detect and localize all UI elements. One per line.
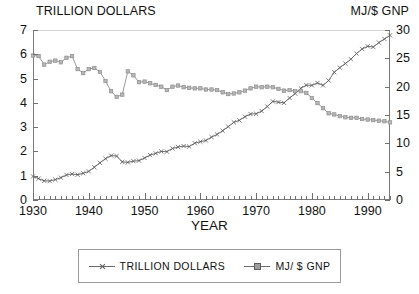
x-minor-tick <box>39 196 40 200</box>
data-point-marker <box>310 96 313 99</box>
right-axis-title: MJ/$ GNP <box>351 4 409 18</box>
left-axis-title: TRILLION DOLLARS <box>36 4 156 18</box>
x-minor-tick <box>317 196 318 200</box>
data-point-marker <box>36 177 40 181</box>
series-lines <box>33 30 390 200</box>
data-point-marker <box>104 79 107 82</box>
data-point-marker <box>98 70 101 73</box>
data-point-marker <box>87 169 91 173</box>
legend-marker-square-icon <box>244 262 270 271</box>
data-point-marker <box>87 67 90 70</box>
data-point-marker <box>121 93 124 96</box>
x-minor-tick <box>150 196 151 200</box>
x-minor-tick <box>345 196 346 200</box>
data-point-marker <box>199 87 202 90</box>
data-point-marker <box>176 84 179 87</box>
data-point-marker <box>93 66 96 69</box>
data-point-marker <box>165 88 168 91</box>
data-point-marker <box>132 74 135 77</box>
x-minor-tick <box>295 196 296 200</box>
x-minor-tick <box>223 196 224 200</box>
right-tick <box>385 200 390 201</box>
x-minor-tick <box>234 196 235 200</box>
data-point-marker <box>82 71 85 74</box>
data-point-marker <box>377 119 380 122</box>
x-major-tick <box>33 193 34 200</box>
data-point-marker <box>383 120 386 123</box>
data-point-marker <box>249 87 252 90</box>
x-major-tick <box>145 193 146 200</box>
data-point-marker <box>327 78 331 82</box>
data-point-marker <box>321 83 325 87</box>
x-minor-tick <box>161 196 162 200</box>
x-minor-tick <box>379 196 380 200</box>
x-minor-tick <box>94 196 95 200</box>
data-point-marker <box>215 88 218 91</box>
x-minor-tick <box>172 196 173 200</box>
x-minor-tick <box>357 196 358 200</box>
data-point-marker <box>338 66 342 70</box>
left-tick <box>33 79 38 80</box>
x-tick-label: 1990 <box>343 205 393 218</box>
x-minor-tick <box>329 196 330 200</box>
x-minor-tick <box>167 196 168 200</box>
left-tick-label: 7 <box>5 24 27 37</box>
left-tick <box>33 103 38 104</box>
data-point-marker <box>103 157 107 161</box>
data-point-marker <box>209 135 213 139</box>
x-tick-label: 1970 <box>231 205 281 218</box>
data-point-marker <box>160 85 163 88</box>
left-tick <box>33 200 38 201</box>
data-point-marker <box>243 89 246 92</box>
data-point-marker <box>210 88 213 91</box>
data-point-marker <box>42 63 45 66</box>
data-point-marker <box>243 115 247 119</box>
x-minor-tick <box>373 196 374 200</box>
left-tick-label: 5 <box>5 73 27 86</box>
legend-marker-x-icon <box>89 262 115 271</box>
x-minor-tick <box>384 196 385 200</box>
right-tick-label: 5 <box>396 166 419 179</box>
x-minor-tick <box>178 196 179 200</box>
data-point-marker <box>355 116 358 119</box>
data-point-marker <box>204 88 207 91</box>
legend-item-mj-gnp: MJ/ $ GNP <box>244 260 330 272</box>
right-tick-label: 20 <box>396 81 419 94</box>
data-point-marker <box>327 112 330 115</box>
data-point-marker <box>182 86 185 89</box>
data-point-marker <box>277 87 280 90</box>
data-point-marker <box>316 101 319 104</box>
data-point-marker <box>59 61 62 64</box>
x-minor-tick <box>262 196 263 200</box>
x-minor-tick <box>72 196 73 200</box>
chart-legend: TRILLION DOLLARS MJ/ $ GNP <box>78 249 341 283</box>
data-point-marker <box>293 90 296 93</box>
data-point-marker <box>148 82 151 85</box>
right-tick <box>385 115 390 116</box>
data-point-marker <box>54 59 57 62</box>
x-minor-tick <box>239 196 240 200</box>
x-major-tick <box>368 193 369 200</box>
x-minor-tick <box>83 196 84 200</box>
x-minor-tick <box>284 196 285 200</box>
x-minor-tick <box>390 196 391 200</box>
x-minor-tick <box>212 196 213 200</box>
left-tick <box>33 127 38 128</box>
x-minor-tick <box>50 196 51 200</box>
data-point-marker <box>265 104 269 108</box>
series-1 <box>31 33 392 183</box>
x-tick-label: 1940 <box>64 205 114 218</box>
x-minor-tick <box>111 196 112 200</box>
data-point-marker <box>48 60 51 63</box>
chart-figure: TRILLION DOLLARS MJ/$ GNP 01234567 05101… <box>0 0 419 294</box>
data-point-marker <box>215 132 219 136</box>
x-minor-tick <box>100 196 101 200</box>
data-point-marker <box>377 41 381 45</box>
data-point-marker <box>254 85 257 88</box>
left-tick-label: 1 <box>5 170 27 183</box>
data-point-marker <box>143 80 146 83</box>
x-minor-tick <box>362 196 363 200</box>
x-minor-tick <box>301 196 302 200</box>
data-point-marker <box>232 92 235 95</box>
right-tick-label: 25 <box>396 52 419 65</box>
